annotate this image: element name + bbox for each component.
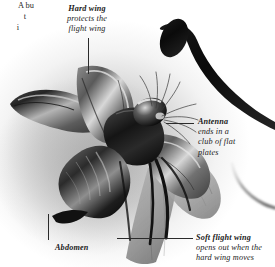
label-antenna-term: Antenna [198,117,228,126]
beetle-anatomy-figure: Hard wing protects the flight wing Anten… [0,0,275,267]
label-hard-wing-line3: flight wing [68,24,105,33]
label-hard-wing: Hard wing protects the flight wing [44,4,130,35]
label-soft-flight-wing-line2: opens out when the [196,243,262,252]
label-antenna: Antenna ends in a club of flat plates [198,117,268,158]
abdomen [52,146,130,224]
leader-line-antenna [166,123,194,124]
label-soft-flight-wing: Soft flight wing opens out when the hard… [196,233,275,264]
thin-curve-lower-right [232,164,275,208]
label-abdomen: Abdomen [55,243,125,253]
leader-line-soft-flight-wing [117,238,193,239]
leader-line-hard-wing [88,38,89,74]
antenna-club-large [154,15,275,130]
label-soft-flight-wing-line3: hard wing moves [196,253,254,262]
label-antenna-line2: ends in a [198,127,229,136]
label-soft-flight-wing-term: Soft flight wing [196,233,251,242]
label-abdomen-term: Abdomen [55,243,88,252]
label-antenna-line3: club of flat [198,137,235,146]
label-hard-wing-term: Hard wing [68,4,106,13]
leader-line-abdomen [48,214,49,240]
label-antenna-line4: plates [198,148,219,157]
label-hard-wing-line2: protects the [67,14,107,23]
